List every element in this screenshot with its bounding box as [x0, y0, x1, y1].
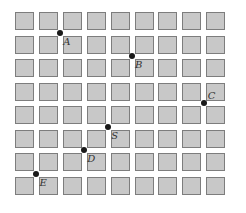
block-cell	[135, 83, 154, 101]
point-c-marker	[201, 100, 207, 106]
block-cell	[39, 59, 58, 77]
block-cell	[206, 106, 225, 124]
block-cell	[111, 59, 130, 77]
block-cell	[111, 83, 130, 101]
block-cell	[158, 83, 177, 101]
block-cell	[111, 12, 130, 30]
block-cell	[63, 177, 82, 195]
block-cell	[135, 153, 154, 171]
point-c-label: C	[208, 91, 216, 101]
block-cell	[182, 36, 201, 54]
point-b-label: B	[135, 60, 142, 70]
block-cell	[87, 83, 106, 101]
block-cell	[135, 106, 154, 124]
block-cell	[87, 177, 106, 195]
point-e-label: E	[39, 178, 46, 188]
block-cell	[15, 153, 34, 171]
block-cell	[158, 12, 177, 30]
block-cell	[182, 83, 201, 101]
block-cell	[111, 153, 130, 171]
block-cell	[135, 177, 154, 195]
block-cell	[63, 153, 82, 171]
block-cell	[39, 106, 58, 124]
block-cell	[182, 106, 201, 124]
block-cell	[135, 130, 154, 148]
block-cell	[135, 36, 154, 54]
block-cell	[63, 106, 82, 124]
block-cell	[111, 36, 130, 54]
block-cell	[39, 36, 58, 54]
block-cell	[158, 177, 177, 195]
block-cell	[15, 177, 34, 195]
block-cell	[206, 59, 225, 77]
block-cell	[15, 12, 34, 30]
block-cell	[158, 36, 177, 54]
block-cell	[206, 36, 225, 54]
block-cell	[158, 153, 177, 171]
block-cell	[87, 36, 106, 54]
block-cell	[158, 130, 177, 148]
block-cell	[87, 59, 106, 77]
block-cell	[158, 106, 177, 124]
block-cell	[39, 130, 58, 148]
block-cell	[15, 36, 34, 54]
block-cell	[158, 59, 177, 77]
point-a-label: A	[63, 37, 70, 47]
block-cell	[39, 153, 58, 171]
block-cell	[39, 83, 58, 101]
point-s-marker	[105, 124, 111, 130]
block-cell	[87, 106, 106, 124]
block-cell	[135, 12, 154, 30]
block-cell	[206, 12, 225, 30]
block-cell	[15, 59, 34, 77]
block-cell	[182, 177, 201, 195]
block-cell	[182, 59, 201, 77]
block-cell	[182, 130, 201, 148]
block-cell	[111, 177, 130, 195]
point-s-label: S	[111, 131, 118, 141]
block-cell	[87, 12, 106, 30]
block-cell	[63, 59, 82, 77]
block-cell	[15, 130, 34, 148]
block-cell	[206, 130, 225, 148]
block-cell	[39, 12, 58, 30]
block-cell	[182, 153, 201, 171]
point-d-label: D	[87, 154, 95, 164]
street-grid-diagram: ABCSDE	[0, 0, 246, 213]
block-cell	[63, 83, 82, 101]
block-cell	[63, 12, 82, 30]
block-cell	[206, 177, 225, 195]
block-cell	[87, 130, 106, 148]
block-cell	[206, 153, 225, 171]
block-cell	[15, 83, 34, 101]
block-cell	[15, 106, 34, 124]
block-cell	[182, 12, 201, 30]
block-cell	[63, 130, 82, 148]
block-cell	[111, 106, 130, 124]
